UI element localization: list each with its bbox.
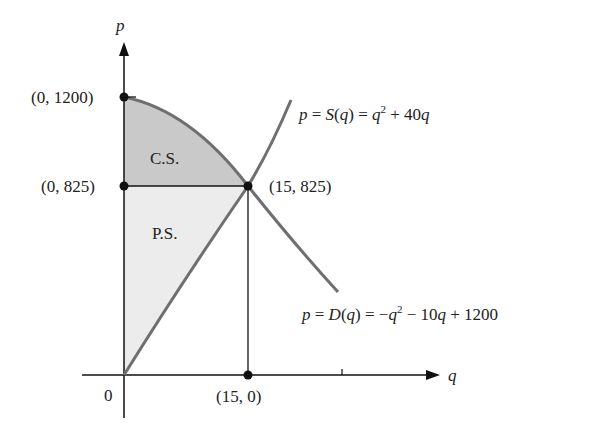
surplus-diagram: p q 0 (0, 1200) (0, 825) (15, 825) (15, … bbox=[0, 0, 611, 430]
point-label-equilibrium: (15, 825) bbox=[269, 177, 331, 196]
point-label-825: (0, 825) bbox=[41, 177, 95, 196]
consumer-surplus-region bbox=[124, 97, 248, 186]
origin-label: 0 bbox=[104, 386, 113, 405]
point-15-0 bbox=[244, 371, 253, 380]
point-0-825 bbox=[120, 182, 129, 191]
point-label-15-0: (15, 0) bbox=[216, 387, 261, 406]
q-axis-arrow-icon bbox=[426, 370, 440, 380]
cs-label: C.S. bbox=[150, 149, 179, 168]
supply-formula: p = S(q) = q2 + 40q bbox=[298, 103, 430, 124]
demand-formula: p = D(q) = −q2 − 10q + 1200 bbox=[301, 303, 498, 324]
point-0-1200 bbox=[120, 93, 129, 102]
ps-label: P.S. bbox=[152, 224, 178, 243]
point-equilibrium bbox=[244, 182, 253, 191]
q-axis-label: q bbox=[448, 366, 457, 385]
p-axis-label: p bbox=[115, 16, 125, 35]
point-label-1200: (0, 1200) bbox=[31, 88, 93, 107]
p-axis-arrow-icon bbox=[119, 42, 129, 56]
